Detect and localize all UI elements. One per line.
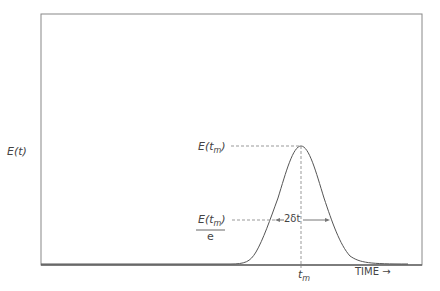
peak-value-label: E(tm) [198,140,226,155]
plot-frame [41,14,422,265]
e-curve [41,146,408,264]
time-axis-label: TIME → [355,266,391,277]
tm-label: tm [298,268,310,283]
width-label: 2δt [284,213,300,224]
e-level-denominator: e [207,230,214,243]
e-level-label: E(tm) [198,213,226,228]
y-axis-label: E(t) [7,145,27,158]
